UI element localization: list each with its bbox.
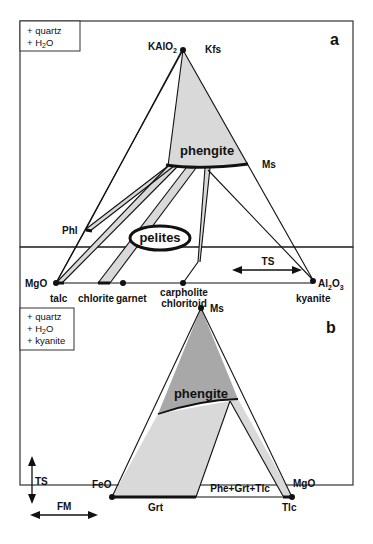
ms-point-b (198, 305, 204, 311)
panel-a-note-h2o: + H2O (27, 37, 53, 49)
panel-b-note-h2o: + H2O (27, 323, 53, 335)
ts-label-b: TS (35, 476, 48, 487)
kfs-point (180, 47, 186, 53)
phengite-label-a: phengite (180, 143, 234, 158)
grt-label: Grt (148, 502, 164, 513)
kalo2-label: KAlO2 (148, 41, 177, 54)
ts-label-a: TS (262, 256, 275, 267)
panel-b-note-kyanite: + kyanite (27, 335, 65, 346)
mgo-label-b: MgO (293, 478, 315, 489)
fm-label: FM (57, 501, 71, 512)
kyanite-label: kyanite (296, 293, 331, 304)
mgo-point-b (289, 494, 295, 500)
carpholite-label: carpholite (160, 287, 208, 298)
ts-arrow-a-left-head (232, 266, 242, 274)
phase-diagram-figure: + quartz + H2O a KAlO2 Kfs phengite (0, 0, 373, 544)
ms-label-a: Ms (262, 159, 276, 170)
ms-label-b: Ms (210, 303, 224, 314)
phengite-label-b: phengite (174, 386, 228, 401)
fm-arrow-right-head (88, 511, 98, 519)
carpholite-point (180, 280, 186, 286)
panel-b-letter: b (326, 319, 336, 336)
al2o3-label: Al2O3 (318, 278, 344, 291)
pelites-label: pelites (139, 230, 180, 245)
panel-b-note-quartz: + quartz (27, 311, 62, 322)
fm-arrow-left-head (30, 511, 40, 519)
carpholite-tie (183, 262, 198, 283)
tlc-phengite-band (230, 399, 292, 496)
kfs-label: Kfs (205, 44, 222, 55)
mgo-point (53, 280, 59, 286)
phe-grt-tlc-label: Phe+Grt+Tlc (210, 483, 270, 494)
garnet-point (120, 280, 126, 286)
panel-a-note-quartz: + quartz (27, 25, 62, 36)
ts-arrow-b-up-head (28, 456, 36, 466)
chlorite-label: chlorite (78, 293, 115, 304)
tlc-label: Tlc (282, 502, 297, 513)
ts-arrow-b-down-head (28, 494, 36, 504)
feo-point (109, 494, 115, 500)
mgo-label-a: MgO (25, 278, 47, 289)
phl-label: Phl (62, 225, 78, 236)
al2o3-point (310, 278, 316, 284)
talc-label: talc (50, 293, 68, 304)
feo-label: FeO (92, 479, 112, 490)
panel-a-letter: a (330, 31, 339, 48)
phl-marker (86, 230, 92, 231)
garnet-label: garnet (116, 293, 147, 304)
